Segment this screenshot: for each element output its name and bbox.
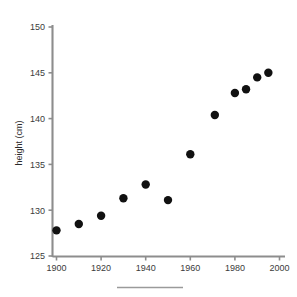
x-tick-label-2000: 2000 [269, 263, 289, 273]
data-point [119, 194, 127, 202]
data-point [186, 150, 194, 158]
data-point [211, 111, 219, 119]
data-point [97, 212, 105, 220]
data-point [253, 73, 261, 81]
data-point [142, 180, 150, 188]
x-tick-label-1940: 1940 [136, 263, 156, 273]
x-tick-label-1960: 1960 [180, 263, 200, 273]
data-point [242, 85, 250, 93]
x-tick-label-1920: 1920 [91, 263, 111, 273]
chart-canvas: 150 145 140 135 130 125 1900 1920 1940 1… [0, 0, 297, 297]
x-tick-label-1980: 1980 [225, 263, 245, 273]
y-tick-label-135: 135 [30, 160, 45, 170]
y-tick-label-125: 125 [30, 251, 45, 261]
data-point [52, 226, 60, 234]
x-tick-label-1900: 1900 [46, 263, 66, 273]
y-axis-title: height (cm) [14, 120, 24, 165]
data-point [264, 69, 272, 77]
scatter-chart: 150 145 140 135 130 125 1900 1920 1940 1… [0, 0, 297, 297]
y-tick-label-145: 145 [30, 68, 45, 78]
data-point [164, 196, 172, 204]
data-points-group [52, 69, 272, 235]
y-tick-label-140: 140 [30, 114, 45, 124]
data-point [231, 89, 239, 97]
data-point [75, 220, 83, 228]
y-tick-label-150: 150 [30, 22, 45, 32]
y-tick-label-130: 130 [30, 206, 45, 216]
